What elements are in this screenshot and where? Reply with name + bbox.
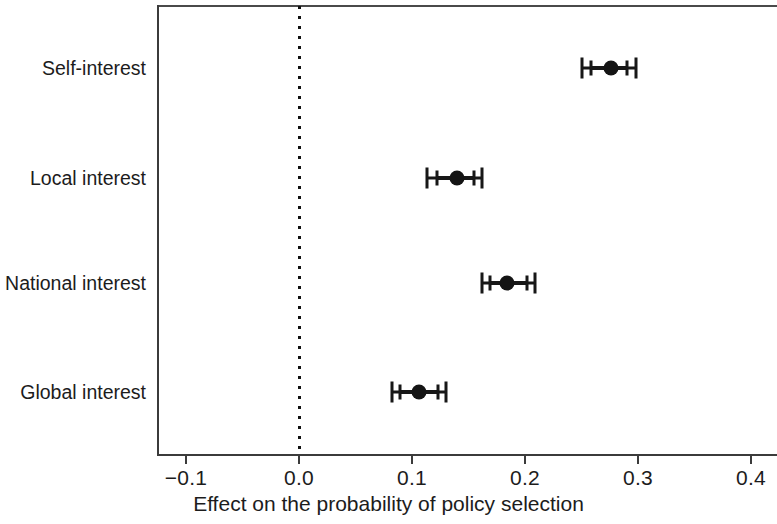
x-axis-tick-label: 0.1 bbox=[372, 466, 452, 490]
zero-reference-line bbox=[298, 6, 301, 455]
confidence-interval-outer-cap bbox=[580, 58, 583, 79]
x-axis-tick bbox=[524, 455, 526, 464]
x-axis-tick bbox=[750, 455, 752, 464]
confidence-interval-outer-cap bbox=[481, 273, 484, 294]
y-axis-category-label: National interest bbox=[5, 272, 146, 295]
y-axis-category-label: Self-interest bbox=[42, 57, 146, 80]
confidence-interval-inner-cap bbox=[473, 171, 476, 186]
plot-frame-top bbox=[157, 5, 777, 7]
x-axis-tick-label: 0.3 bbox=[598, 466, 678, 490]
x-axis-tick bbox=[637, 455, 639, 464]
x-axis-tick-label: 0.0 bbox=[259, 466, 339, 490]
x-axis-tick bbox=[298, 455, 300, 464]
confidence-interval-inner-cap bbox=[436, 385, 439, 400]
estimate-point bbox=[499, 276, 514, 291]
y-axis-category-label: Global interest bbox=[20, 381, 146, 404]
confidence-interval-outer-cap bbox=[390, 382, 393, 403]
x-axis-tick bbox=[411, 455, 413, 464]
confidence-interval-inner-cap bbox=[435, 171, 438, 186]
confidence-interval-outer-cap bbox=[481, 168, 484, 189]
estimate-point bbox=[450, 171, 465, 186]
confidence-interval-inner-cap bbox=[589, 61, 592, 76]
confidence-interval-outer-cap bbox=[425, 168, 428, 189]
x-axis-tick-label: −0.1 bbox=[146, 466, 226, 490]
confidence-interval-outer-cap bbox=[634, 58, 637, 79]
confidence-interval-outer-cap bbox=[444, 382, 447, 403]
x-axis-tick-label: 0.4 bbox=[711, 466, 777, 490]
plot-frame-bottom-axis bbox=[157, 454, 777, 456]
x-axis-tick bbox=[185, 455, 187, 464]
confidence-interval-outer-cap bbox=[534, 273, 537, 294]
confidence-interval-inner-cap bbox=[488, 276, 491, 291]
confidence-interval-inner-cap bbox=[625, 61, 628, 76]
x-axis-title: Effect on the probability of policy sele… bbox=[0, 492, 777, 516]
confidence-interval-inner-cap bbox=[398, 385, 401, 400]
plot-frame-left-axis bbox=[157, 5, 159, 456]
y-axis-category-label: Local interest bbox=[30, 167, 146, 190]
estimate-point bbox=[411, 385, 426, 400]
estimate-point bbox=[603, 61, 618, 76]
x-axis-tick-label: 0.2 bbox=[485, 466, 565, 490]
confidence-interval-inner-cap bbox=[526, 276, 529, 291]
coefficient-plot-figure: −0.10.00.10.20.30.4 Self-interestLocal i… bbox=[0, 0, 777, 524]
